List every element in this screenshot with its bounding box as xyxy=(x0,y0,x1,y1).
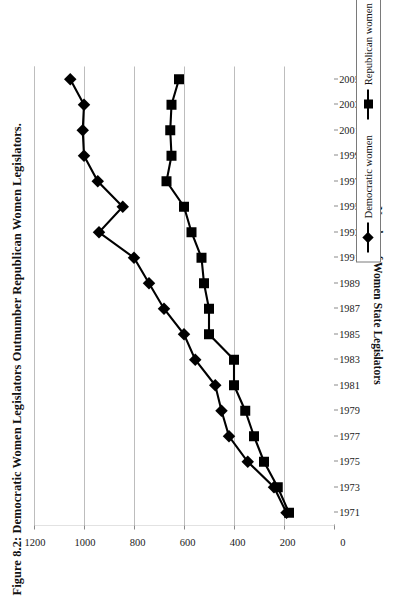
square-marker-icon xyxy=(204,329,214,339)
year-axis-label: 1977 xyxy=(334,430,366,441)
year-axis-label: 1987 xyxy=(334,303,366,314)
chart-plot-area xyxy=(34,66,334,525)
series-democratic xyxy=(64,73,293,519)
page-title: Figure 8.2: Democratic Women Legislators… xyxy=(10,123,25,595)
series-line xyxy=(70,79,286,513)
value-axis-label: 800 xyxy=(120,537,146,548)
scanned-figure-page: Figure 8.2: Democratic Women Legislators… xyxy=(0,0,398,603)
series-line xyxy=(167,79,290,513)
square-marker-icon xyxy=(229,354,239,364)
square-marker-icon xyxy=(179,201,189,211)
square-marker-icon xyxy=(273,482,283,492)
value-tick xyxy=(84,525,85,529)
diamond-marker-icon xyxy=(78,149,90,161)
chart-legend: Democratic womenRepublican women xyxy=(356,0,381,262)
value-tick xyxy=(334,525,335,529)
year-axis-label: 1981 xyxy=(334,379,366,390)
square-marker-icon xyxy=(187,227,197,237)
diamond-marker-icon xyxy=(64,73,76,85)
square-marker-icon xyxy=(165,125,175,135)
legend-label: Republican women xyxy=(363,3,374,85)
value-tick xyxy=(284,525,285,529)
year-axis-label: 1971 xyxy=(334,507,366,518)
value-tick xyxy=(234,525,235,529)
value-tick xyxy=(134,525,135,529)
legend-entry: Republican women xyxy=(362,3,374,119)
square-marker-icon xyxy=(199,278,209,288)
diamond-marker-icon xyxy=(362,222,374,252)
legend-entry: Democratic women xyxy=(362,135,374,252)
square-marker-icon xyxy=(162,176,172,186)
diamond-marker-icon xyxy=(143,277,155,289)
square-marker-icon xyxy=(240,405,250,415)
year-axis-label: 1973 xyxy=(334,481,366,492)
data-series-layer xyxy=(34,66,334,525)
value-axis-label: 1200 xyxy=(20,537,46,548)
diamond-marker-icon xyxy=(77,124,89,136)
diamond-marker-icon xyxy=(215,404,227,416)
value-tick xyxy=(184,525,185,529)
diamond-marker-icon xyxy=(223,430,235,442)
year-axis-label: 1983 xyxy=(334,354,366,365)
square-marker-icon xyxy=(249,431,259,441)
square-marker-icon xyxy=(284,507,294,517)
square-marker-icon xyxy=(197,252,207,262)
legend-label: Democratic women xyxy=(363,135,374,218)
year-axis-label: 1985 xyxy=(334,328,366,339)
diamond-marker-icon xyxy=(128,251,140,263)
year-axis-label: 1989 xyxy=(334,277,366,288)
value-axis-label: 400 xyxy=(220,537,246,548)
value-axis-label: 200 xyxy=(270,537,296,548)
square-marker-icon xyxy=(259,456,269,466)
square-marker-icon xyxy=(204,303,214,313)
square-marker-icon xyxy=(174,74,184,84)
series-republican xyxy=(162,74,295,518)
square-marker-icon xyxy=(167,150,177,160)
value-tick xyxy=(34,525,35,529)
diamond-marker-icon xyxy=(78,98,90,110)
value-axis-label: 600 xyxy=(170,537,196,548)
year-axis-label: 1979 xyxy=(334,405,366,416)
value-axis-label: 1000 xyxy=(70,537,96,548)
square-marker-icon xyxy=(167,99,177,109)
square-marker-icon xyxy=(229,380,239,390)
square-marker-icon xyxy=(362,89,374,119)
value-axis-label: 0 xyxy=(320,537,346,548)
year-axis-label: 1975 xyxy=(334,456,366,467)
